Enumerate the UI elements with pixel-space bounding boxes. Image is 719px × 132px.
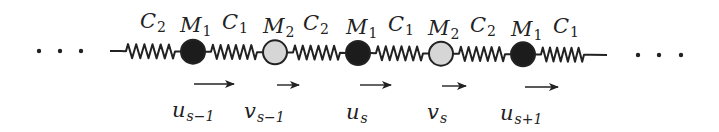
spring-constant-label-subscript: 1 [570,24,579,40]
mass-label: M1 [511,19,542,42]
spring-constant-label: C2 [303,13,329,36]
displacement-label-symbol: v [244,99,256,123]
spring-constant-label: C2 [470,15,496,38]
mass-m2 [263,40,287,64]
displacement-label-subscript: s+1 [515,111,543,127]
mass-m1 [181,40,205,64]
spring-constant-label-symbol: C [140,9,156,33]
spring-constant-label-subscript: 2 [487,23,496,39]
displacement-label-subscript: s [440,110,447,126]
mass-label-symbol: M [346,15,368,39]
mass-label-symbol: M [180,13,202,37]
ellipsis-left-dot [58,49,62,53]
mass-label-symbol: M [511,17,533,41]
mass-label: M1 [180,15,211,38]
mass-label-symbol: M [263,14,285,38]
spring-c1 [535,48,590,62]
mass-m1 [511,42,535,66]
spring-constant-label: C1 [222,12,248,35]
displacement-label-subscript: s−1 [257,109,285,125]
spring-constant-label-symbol: C [303,11,319,35]
displacement-label-symbol: u [172,98,186,122]
displacement-label: us [346,102,368,125]
mass-label-symbol: M [428,16,450,40]
mass-label-subscript: 1 [203,23,212,39]
spring-constant-label-symbol: C [388,12,404,36]
spring-c2 [287,46,346,60]
spring-constant-label-symbol: C [470,13,486,37]
mass-label-subscript: 1 [534,27,543,43]
mass-label: M2 [263,16,294,39]
mass-label-subscript: 2 [286,24,295,40]
spring-c2 [453,47,511,61]
mass-label: M2 [428,18,459,41]
mass-label-subscript: 1 [369,25,378,41]
ellipsis-right-dot [636,53,640,57]
displacement-label: us−1 [172,100,214,123]
mass-m2 [429,42,453,66]
mass-m1 [346,41,370,65]
spring-constant-label-symbol: C [222,10,238,34]
displacement-label: vs−1 [244,101,285,124]
diatomic-chain-diagram: C2C1C2C1C2C1M1M2M1M2M1us−1vs−1usvsus+1 [0,0,719,132]
mass-label-subscript: 2 [451,26,460,42]
spring-constant-label-subscript: 1 [239,20,248,36]
spring-constant-label-symbol: C [553,14,569,38]
displacement-label: us+1 [500,103,542,126]
spring-c1 [370,46,429,60]
displacement-label-subscript: s−1 [187,108,215,124]
ellipsis-left-dot [37,49,41,53]
spring-constant-label: C1 [553,16,579,39]
spring-c2 [120,44,181,58]
ellipsis-right-dot [679,53,683,57]
spring-constant-label: C2 [140,11,166,34]
ellipsis-right-dot [657,53,661,57]
spring-constant-label-subscript: 2 [320,21,329,37]
displacement-label-symbol: u [500,101,514,125]
mass-label: M1 [346,17,377,40]
displacement-label: vs [427,102,447,125]
spring-constant-label-subscript: 1 [405,22,414,38]
spring-c1 [205,45,263,59]
displacement-label-symbol: v [427,100,439,124]
ellipsis-left-dot [79,49,83,53]
displacement-label-symbol: u [346,100,360,124]
displacement-label-subscript: s [361,110,368,126]
spring-constant-label-subscript: 2 [157,19,166,35]
spring-constant-label: C1 [388,14,414,37]
